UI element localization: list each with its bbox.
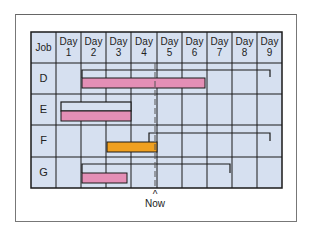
job-label-d: D [31, 72, 56, 84]
job-e-bars [61, 102, 131, 121]
header-day-4: Day4 [131, 36, 157, 58]
header-day-9: Day9 [257, 36, 282, 58]
header-day-2: Day2 [81, 36, 106, 58]
header-day-5: Day5 [157, 36, 182, 58]
now-marker: ^ Now [140, 190, 170, 208]
header-day-1: Day1 [56, 36, 81, 58]
job-label-g: G [31, 166, 56, 178]
job-label-e: E [31, 103, 56, 115]
header-job: Job [31, 42, 56, 53]
header-day-7: Day7 [207, 36, 232, 58]
header-day-8: Day8 [232, 36, 257, 58]
now-label: Now [145, 198, 165, 209]
header-day-3: Day3 [106, 36, 131, 58]
header-day-6: Day6 [182, 36, 207, 58]
job-label-f: F [31, 134, 56, 146]
